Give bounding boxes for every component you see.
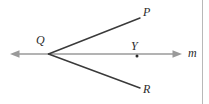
label-point-r: R	[143, 83, 150, 95]
geometry-canvas	[0, 0, 209, 104]
point-y-dot	[136, 55, 139, 58]
line-m-right-arrowhead	[173, 50, 183, 58]
geometry-figure: Q P R Y m	[0, 0, 209, 104]
line-m-left-arrowhead	[10, 50, 20, 58]
label-point-p: P	[143, 6, 150, 18]
ray-qr	[49, 54, 141, 88]
label-point-q: Q	[36, 34, 45, 46]
line-m-group	[10, 50, 182, 58]
label-line-m: m	[188, 47, 197, 59]
label-point-y: Y	[131, 40, 138, 52]
ray-qp	[49, 18, 141, 54]
